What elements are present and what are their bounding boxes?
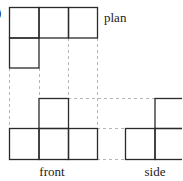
side-view — [126, 99, 183, 160]
plan-label: plan — [104, 10, 127, 25]
projection-lines — [10, 38, 156, 160]
front-view — [10, 99, 98, 160]
plan-view — [10, 8, 98, 69]
orthographic-views-diagram: ) plan front side — [0, 0, 182, 181]
figure-marker: ) — [0, 5, 1, 20]
side-label: side — [145, 164, 166, 179]
front-label: front — [39, 164, 65, 179]
